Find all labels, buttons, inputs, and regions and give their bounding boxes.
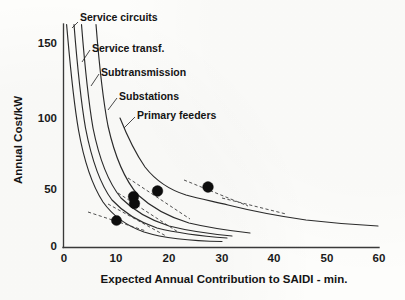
x-tick-10: 10 xyxy=(110,252,123,264)
optimum-marker-service-circuits xyxy=(111,215,121,225)
cost-vs-saidi-chart: 0 50 100 150 0 10 20 30 40 50 60 Expecte… xyxy=(0,0,405,300)
y-tick-0: 0 xyxy=(51,240,57,252)
x-tick-0: 0 xyxy=(61,252,67,264)
y-tick-150: 150 xyxy=(38,37,57,49)
tangent-lines xyxy=(88,178,286,236)
optimum-marker-primary-feeders xyxy=(203,182,214,193)
x-axis-title: Expected Annual Contribution to SAIDI - … xyxy=(101,273,348,285)
x-tick-60: 60 xyxy=(373,252,386,264)
x-tick-40: 40 xyxy=(268,252,281,264)
x-tick-labels: 0 10 20 30 40 50 60 xyxy=(61,252,386,264)
leader-primary-feeders xyxy=(124,117,135,128)
curve-labels: Service circuits Service transf. Subtran… xyxy=(80,11,217,121)
curve-service-transf xyxy=(74,25,227,239)
leader-substations xyxy=(108,98,117,110)
curve-label-subtransmission: Subtransmission xyxy=(101,66,186,78)
x-tick-30: 30 xyxy=(216,252,229,264)
leader-subtransmission xyxy=(91,74,99,86)
leader-service-circuits xyxy=(72,22,78,28)
curve-service-circuits xyxy=(67,25,222,242)
curve-substations xyxy=(96,25,250,234)
y-axis-title: Annual Cost/kW xyxy=(12,96,24,184)
optimum-marker-mid-feeder xyxy=(152,186,163,197)
x-tick-50: 50 xyxy=(321,252,334,264)
leader-service-transf xyxy=(82,50,90,62)
x-tick-20: 20 xyxy=(163,252,176,264)
curve-label-service-transf: Service transf. xyxy=(92,42,164,54)
y-tick-labels: 0 50 100 150 xyxy=(38,37,57,252)
y-tick-100: 100 xyxy=(38,112,57,124)
curve-label-substations: Substations xyxy=(119,90,179,102)
chart-figure: 0 50 100 150 0 10 20 30 40 50 60 Expecte… xyxy=(0,0,405,300)
curve-label-primary-feeders: Primary feeders xyxy=(137,109,217,121)
curve-label-service-circuits: Service circuits xyxy=(80,11,158,23)
optimum-marker-subtransmission xyxy=(129,198,140,209)
curves-group xyxy=(67,25,378,242)
y-tick-50: 50 xyxy=(44,183,57,195)
